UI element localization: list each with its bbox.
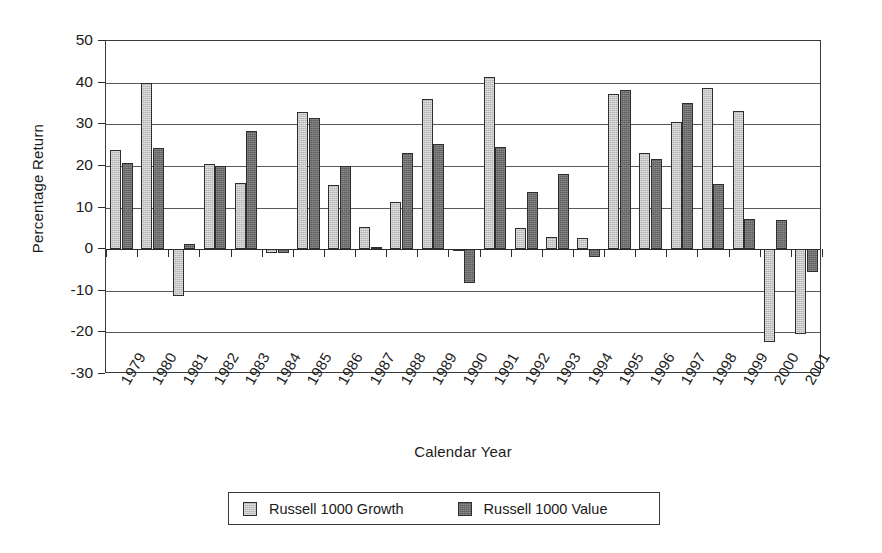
bar-1979-value: [122, 163, 133, 249]
bar-1997-growth: [671, 122, 682, 249]
chart-legend: Russell 1000 Growth Russell 1000 Value: [228, 492, 660, 525]
x-tick-mark-1989: [417, 249, 418, 257]
bar-1991-growth: [484, 77, 495, 249]
x-tick-mark-1979: [106, 249, 107, 257]
bar-1980-growth: [141, 83, 152, 249]
x-axis-tick-labels: 1979198019811982198319841985198619871988…: [105, 373, 821, 437]
x-tick-mark-1995: [604, 249, 605, 257]
bar-1999-growth: [733, 111, 744, 249]
bar-1983-growth: [235, 183, 246, 249]
x-tick-mark-1988: [386, 249, 387, 257]
bar-1982-growth: [204, 164, 215, 249]
x-tick-mark-1984: [262, 249, 263, 257]
x-tick-mark-1982: [199, 249, 200, 257]
bar-1993-growth: [546, 237, 557, 249]
y-tick-mark-10: [98, 207, 105, 208]
x-tick-mark-1997: [666, 249, 667, 257]
x-tick-mark-2000: [760, 249, 761, 257]
x-tick-mark-1994: [573, 249, 574, 257]
y-tick-mark-40: [98, 82, 105, 83]
bar-chart: Percentage Return 50403020100-10-20-30 1…: [0, 0, 882, 553]
bar-1984-value: [278, 249, 289, 253]
plot-area: [105, 40, 821, 373]
y-tick-label--30: -30: [33, 364, 93, 382]
bar-1998-growth: [702, 88, 713, 249]
bar-1989-value: [433, 144, 444, 249]
bar-1981-value: [184, 244, 195, 249]
y-tick-mark--30: [98, 373, 105, 374]
x-tick-mark-1987: [355, 249, 356, 257]
x-tick-mark-1996: [635, 249, 636, 257]
legend-label-value: Russell 1000 Value: [484, 501, 608, 517]
bar-1999-value: [744, 219, 755, 249]
bar-1994-growth: [577, 238, 588, 249]
y-tick-mark-0: [98, 248, 105, 249]
bar-1988-value: [402, 153, 413, 250]
x-tick-mark-1993: [542, 249, 543, 257]
bar-1996-value: [651, 159, 662, 249]
x-tick-mark-1992: [511, 249, 512, 257]
bar-1980-value: [153, 148, 164, 250]
bar-1993-value: [558, 174, 569, 249]
x-tick-mark-1999: [729, 249, 730, 257]
value-swatch-icon: [458, 502, 472, 516]
x-tick-mark-2001: [791, 249, 792, 257]
bar-1986-value: [340, 166, 351, 249]
bar-1987-growth: [359, 227, 370, 249]
x-tick-mark-1998: [697, 249, 698, 257]
x-tick-mark-1991: [480, 249, 481, 257]
bar-1994-value: [589, 249, 600, 257]
bar-1997-value: [682, 103, 693, 250]
bar-1992-value: [527, 192, 538, 249]
bar-2000-growth: [764, 249, 775, 342]
bar-1987-value: [371, 247, 382, 249]
growth-swatch-icon: [243, 502, 257, 516]
bar-1985-value: [309, 118, 320, 249]
x-axis-title: Calendar Year: [105, 443, 821, 460]
x-tick-mark-1983: [231, 249, 232, 257]
bar-1990-growth: [453, 249, 464, 251]
bar-1995-value: [620, 90, 631, 249]
x-tick-mark-end: [822, 249, 823, 257]
y-tick-label--20: -20: [33, 322, 93, 340]
bar-1985-growth: [297, 112, 308, 249]
y-tick-mark-30: [98, 123, 105, 124]
y-tick-mark-50: [98, 40, 105, 41]
legend-item-growth: Russell 1000 Growth: [243, 501, 404, 517]
bar-1986-growth: [328, 185, 339, 249]
bar-1981-growth: [173, 249, 184, 296]
x-tick-mark-1990: [448, 249, 449, 257]
bar-1989-growth: [422, 99, 433, 249]
y-tick-mark-20: [98, 165, 105, 166]
bar-2000-value: [776, 220, 787, 249]
bar-1982-value: [215, 166, 226, 249]
bar-1998-value: [713, 184, 724, 249]
x-tick-mark-1981: [168, 249, 169, 257]
legend-label-growth: Russell 1000 Growth: [269, 501, 404, 517]
bar-1992-growth: [515, 228, 526, 249]
bar-1995-growth: [608, 94, 619, 249]
bar-series-container: [106, 41, 820, 372]
bar-2001-growth: [795, 249, 806, 334]
bar-1984-growth: [266, 249, 277, 253]
y-tick-mark--20: [98, 331, 105, 332]
y-axis-title: Percentage Return: [29, 79, 46, 299]
bar-1991-value: [495, 147, 506, 249]
bar-1996-growth: [639, 153, 650, 249]
x-tick-mark-1986: [324, 249, 325, 257]
bar-1990-value: [464, 249, 475, 283]
bar-1988-growth: [390, 202, 401, 249]
y-tick-label-50: 50: [33, 31, 93, 49]
x-tick-mark-1985: [293, 249, 294, 257]
x-tick-mark-1980: [137, 249, 138, 257]
bar-1983-value: [246, 131, 257, 249]
bar-2001-value: [807, 249, 818, 272]
y-tick-mark--10: [98, 290, 105, 291]
legend-item-value: Russell 1000 Value: [458, 501, 608, 517]
bar-1979-growth: [110, 150, 121, 249]
